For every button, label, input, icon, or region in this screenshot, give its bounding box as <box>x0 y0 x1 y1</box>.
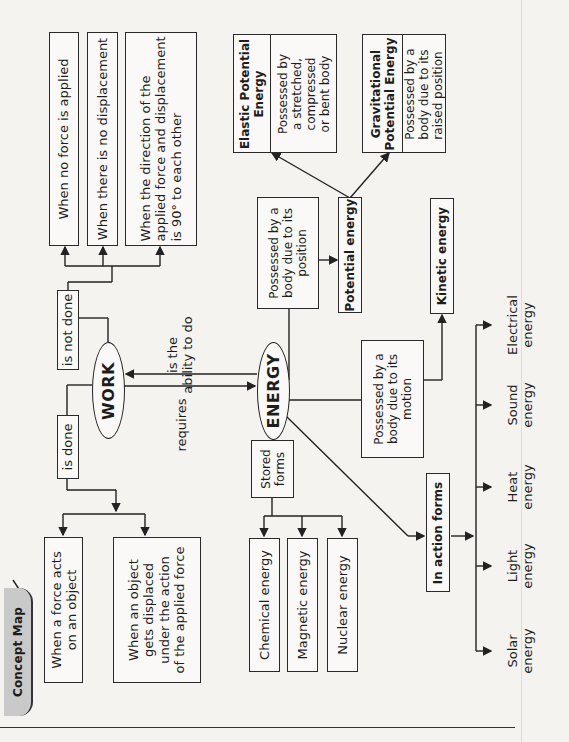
text-line: Stored <box>258 449 272 488</box>
text-line: energy <box>520 543 535 588</box>
heat-energy-text: Heat energy <box>505 464 536 509</box>
magnetic-energy-box: Magnetic energy <box>287 538 318 672</box>
energy-node: ENERGY <box>257 342 290 440</box>
elastic-title-text: Elastic Potential Energy <box>238 38 266 148</box>
text-line: energy <box>520 628 535 673</box>
text-line: body due to its <box>417 48 431 139</box>
solar-energy-text: Solar energy <box>505 628 536 673</box>
text-line: Electrical <box>505 295 520 355</box>
text-line: applied force and displacement <box>153 36 168 241</box>
case-perpendicular: When the direction of the applied force … <box>125 32 197 246</box>
text-line: on an object <box>64 551 79 668</box>
kinetic-energy-box: Kinetic energy <box>430 198 454 314</box>
gravitational-potential-energy-box: Gravitational Potential Energy Possessed… <box>362 34 446 153</box>
text-line: gets displaced <box>142 547 157 674</box>
text-line: motion <box>400 353 414 444</box>
sound-energy-label: Sound energy <box>500 380 540 430</box>
gravitational-desc-text: Possessed by a body due to its raised po… <box>403 48 445 139</box>
concept-map-label: Concept Map <box>10 607 24 697</box>
electrical-energy-text: Electrical energy <box>505 295 536 355</box>
magnetic-energy-text: Magnetic energy <box>295 551 310 660</box>
in-action-forms-box: In action forms <box>426 473 450 592</box>
case-perpendicular-text: When the direction of the applied force … <box>138 36 184 241</box>
stored-forms-box: Stored forms <box>251 440 294 498</box>
text-line: compressed <box>304 53 318 133</box>
text-line: Possessed by a <box>403 48 417 139</box>
potential-energy-box: Potential energy <box>338 197 362 313</box>
electrical-energy-label: Electrical energy <box>500 295 540 355</box>
work-text: WORK <box>99 362 118 420</box>
elastic-title: Elastic Potential Energy <box>234 35 270 152</box>
kinetic-energy-text: Kinetic energy <box>435 207 449 305</box>
nuclear-energy-text: Nuclear energy <box>335 555 350 654</box>
text-line: a stretched, <box>289 53 303 133</box>
is-not-done-text: is not done <box>60 294 75 366</box>
elastic-desc: Possessed by a stretched, compressed or … <box>271 35 336 152</box>
text-line: body due to its <box>281 207 295 298</box>
text-line: Solar <box>505 628 520 673</box>
case-no-displacement: When there is no displacement <box>87 32 118 246</box>
text-line: Gravitational <box>368 37 382 150</box>
text-line: When a force acts <box>48 551 63 668</box>
text-line: raised position <box>431 48 445 139</box>
chemical-energy-text: Chemical energy <box>257 550 272 660</box>
case-force-acts: When a force acts on an object <box>44 537 83 683</box>
text-line: Possessed by a <box>371 353 385 444</box>
gravitational-title: Gravitational Potential Energy <box>363 35 402 152</box>
heat-energy-label: Heat energy <box>500 462 540 512</box>
position-description-box: Possessed by a body due to its position <box>257 197 319 309</box>
case-object-displaced-text: When an object gets displaced under the … <box>126 547 187 674</box>
elastic-potential-energy-box: Elastic Potential Energy Possessed by a … <box>233 34 337 153</box>
stored-forms-text: Stored forms <box>258 449 286 488</box>
text-line: or bent body <box>318 53 332 133</box>
text-line: energy <box>520 295 535 355</box>
is-done-label: is done <box>57 415 79 479</box>
text-line: Light <box>505 543 520 588</box>
text-line: energy <box>520 464 535 509</box>
text-line: is 90° to each other <box>169 36 184 241</box>
page-bottom-rule <box>0 727 515 728</box>
case-no-force-text: When no force is applied <box>56 58 71 219</box>
concept-map-tab: Concept Map <box>4 588 33 716</box>
text-line: of the applied force <box>172 547 187 674</box>
gravitational-title-text: Gravitational Potential Energy <box>368 37 396 150</box>
sound-energy-text: Sound energy <box>505 382 536 427</box>
text-line: When the direction of the <box>138 36 153 241</box>
text-line: under the action <box>157 547 172 674</box>
text-line: Energy <box>252 38 266 148</box>
ability-text: is the ability to do <box>165 316 196 393</box>
text-line: body due to its <box>385 353 399 444</box>
case-force-acts-text: When a force acts on an object <box>48 551 79 668</box>
case-no-force: When no force is applied <box>49 32 79 246</box>
light-energy-label: Light energy <box>500 541 540 591</box>
text-line: position <box>295 207 309 298</box>
text-line: forms <box>273 449 287 488</box>
text-line: Sound <box>505 382 520 427</box>
text-line: Heat <box>505 464 520 509</box>
text-line: Elastic Potential <box>238 38 252 148</box>
requires-label: requires <box>172 390 192 460</box>
case-no-displacement-text: When there is no displacement <box>95 38 110 240</box>
page-edge <box>521 0 522 742</box>
requires-text: requires <box>174 399 189 452</box>
text-line: is the <box>165 316 180 393</box>
potential-energy-text: Potential energy <box>343 199 357 312</box>
motion-description-box: Possessed by a body due to its motion <box>361 340 424 458</box>
is-not-done-label: is not done <box>57 290 79 370</box>
elastic-desc-text: Possessed by a stretched, compressed or … <box>275 53 332 133</box>
text-line: Possessed by <box>275 53 289 133</box>
light-energy-text: Light energy <box>505 543 536 588</box>
text-line: Possessed by a <box>267 207 281 298</box>
text-line: energy <box>520 382 535 427</box>
position-description-text: Possessed by a body due to its position <box>267 207 309 298</box>
nuclear-energy-box: Nuclear energy <box>327 538 358 672</box>
work-node: WORK <box>92 342 125 439</box>
motion-description-text: Possessed by a body due to its motion <box>371 353 413 444</box>
case-object-displaced: When an object gets displaced under the … <box>113 537 201 683</box>
energy-text: ENERGY <box>264 354 283 429</box>
text-line: Potential Energy <box>383 37 397 150</box>
chemical-energy-box: Chemical energy <box>249 538 280 672</box>
gravitational-desc: Possessed by a body due to its raised po… <box>403 35 445 152</box>
is-done-text: is done <box>60 424 75 471</box>
text-line: ability to do <box>180 316 195 393</box>
